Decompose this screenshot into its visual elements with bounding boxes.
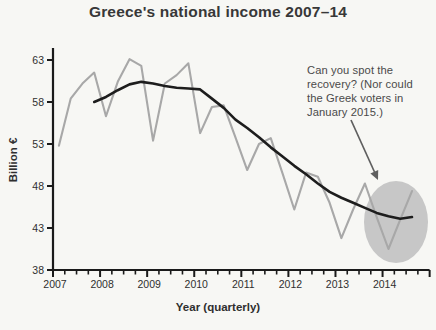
highlight-ellipse	[364, 181, 428, 263]
arrow-shaft	[351, 120, 375, 172]
annotation-line: recovery? (Nor could	[307, 78, 413, 92]
svg-text:2011: 2011	[232, 278, 255, 290]
svg-text:2009: 2009	[137, 278, 161, 290]
annotation-arrow	[351, 120, 378, 180]
svg-text:2010: 2010	[185, 278, 209, 290]
svg-text:53: 53	[32, 138, 44, 150]
chart-canvas: 6358534843382007200820092010201120122013…	[0, 0, 436, 330]
figure: Greece's national income 2007–14 6358534…	[0, 0, 436, 330]
svg-text:2007: 2007	[43, 278, 67, 290]
svg-text:63: 63	[32, 54, 44, 66]
annotation-text: Can you spot the recovery? (Nor could th…	[307, 64, 413, 120]
svg-text:2012: 2012	[279, 278, 303, 290]
y-axis-title: Billion €	[7, 137, 19, 182]
annotation-line: January 2015.)	[307, 106, 413, 120]
svg-text:2013: 2013	[326, 278, 350, 290]
svg-text:2014: 2014	[373, 278, 397, 290]
svg-text:48: 48	[32, 180, 44, 192]
svg-text:58: 58	[32, 96, 44, 108]
svg-text:38: 38	[32, 264, 44, 276]
x-axis-title: Year (quarterly)	[176, 301, 261, 313]
annotation-line: Can you spot the	[307, 64, 413, 78]
svg-text:43: 43	[32, 222, 44, 234]
svg-text:2008: 2008	[90, 278, 114, 290]
annotation-line: the Greek voters in	[307, 92, 413, 106]
